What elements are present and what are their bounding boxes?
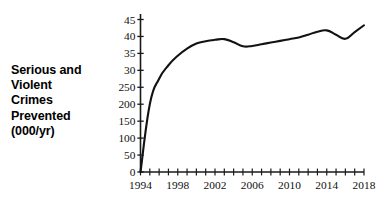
- y-tick-label: 250: [118, 81, 135, 93]
- y-tick-label: 200: [118, 98, 135, 110]
- y-tick-label: 0: [130, 166, 136, 178]
- y-tick-label: 50: [124, 149, 136, 161]
- y-tick-label: 30: [124, 64, 136, 76]
- line-chart-plot: 45403530250200150100500 1994199820022006…: [0, 0, 378, 215]
- y-tick-label: 100: [118, 132, 135, 144]
- x-tick-label: 2014: [315, 179, 338, 191]
- y-axis-tick-labels: 45403530250200150100500: [118, 14, 135, 179]
- y-tick-label: 35: [124, 47, 136, 59]
- x-tick-label: 2018: [353, 179, 376, 191]
- x-tick-label: 1994: [129, 179, 152, 191]
- y-tick-label: 150: [118, 115, 135, 127]
- x-tick-label: 1998: [166, 179, 189, 191]
- x-tick-label: 2010: [278, 179, 301, 191]
- series-line-crimes-prevented: [141, 25, 365, 172]
- x-tick-label: 2006: [241, 179, 264, 191]
- chart-screenshot: Serious and Violent Crimes Prevented (00…: [0, 0, 378, 215]
- x-tick-label: 2002: [204, 179, 227, 191]
- y-tick-label: 40: [124, 30, 136, 42]
- y-tick-label: 45: [124, 14, 136, 26]
- x-axis-tick-labels: 1994199820022006201020142018: [129, 179, 376, 191]
